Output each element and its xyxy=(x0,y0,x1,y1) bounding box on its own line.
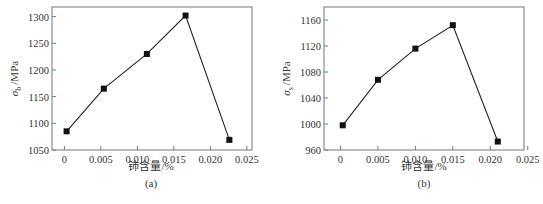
chart-a-y-tick-label: 1200 xyxy=(28,65,49,76)
chart-b-y-tick-label: 1120 xyxy=(300,41,321,52)
chart-b-plot-frame xyxy=(324,7,524,150)
chart-a-data-marker xyxy=(64,128,70,134)
chart-a-data-marker xyxy=(144,51,150,57)
chart-a-x-tick-label: 0 xyxy=(62,154,67,165)
chart-b-data-marker xyxy=(495,139,501,145)
chart-b-y-tick-label: 960 xyxy=(305,145,321,156)
svg-text:σb/MPa: σb/MPa xyxy=(8,61,23,96)
chart-a-x-tick-label: 0.025 xyxy=(235,154,259,165)
chart-b-series-line xyxy=(343,25,498,141)
chart-a-y-tick-label: 1100 xyxy=(28,118,49,129)
chart-b-data-marker xyxy=(412,46,418,52)
chart-a-y-tick-label: 1250 xyxy=(28,38,49,49)
chart-b-y-tick-label: 1160 xyxy=(300,15,321,26)
chart-a: 00.0050.0100.0150.0200.02510501100115012… xyxy=(0,0,270,204)
chart-b-y-tick-label: 1000 xyxy=(300,119,321,130)
chart-b-x-tick-label: 0.025 xyxy=(516,154,540,165)
svg-text:σs/MPa: σs/MPa xyxy=(280,61,295,96)
chart-a-data-marker xyxy=(226,137,232,143)
chart-b: 00.0050.0100.0150.0200.02596010001040108… xyxy=(270,0,543,204)
chart-a-y-axis-label: σb/MPa xyxy=(8,61,23,96)
chart-a-x-tick-label: 0.020 xyxy=(199,154,223,165)
chart-b-y-tick-label: 1080 xyxy=(300,67,321,78)
chart-b-caption: (b) xyxy=(404,177,444,189)
chart-b-y-axis-label: σs/MPa xyxy=(280,61,295,96)
chart-a-series-line xyxy=(67,16,230,140)
chart-b-data-marker xyxy=(375,77,381,83)
chart-a-plot: 00.0050.0100.0150.0200.02510501100115012… xyxy=(0,0,270,204)
chart-b-x-axis-label: 铈含量/% xyxy=(384,157,464,173)
chart-a-data-marker xyxy=(101,86,107,92)
chart-b-plot: 00.0050.0100.0150.0200.02596010001040108… xyxy=(270,0,543,204)
chart-a-x-axis-label: 铈含量/% xyxy=(111,157,191,173)
chart-a-y-tick-label: 1150 xyxy=(28,92,49,103)
chart-b-x-tick-label: 0 xyxy=(338,154,343,165)
chart-b-data-marker xyxy=(450,22,456,28)
chart-b-y-tick-label: 1040 xyxy=(300,93,321,104)
chart-a-plot-frame xyxy=(52,7,252,150)
chart-b-data-marker xyxy=(340,122,346,128)
chart-a-data-marker xyxy=(183,13,189,19)
chart-a-y-tick-label: 1050 xyxy=(28,145,49,156)
chart-a-x-tick-label: 0.005 xyxy=(89,154,113,165)
chart-a-caption: (a) xyxy=(131,177,171,189)
chart-b-x-tick-label: 0.020 xyxy=(478,154,502,165)
chart-a-y-tick-label: 1300 xyxy=(28,12,49,23)
